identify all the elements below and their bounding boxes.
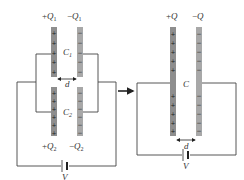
label-plus-q2: +Q2 [42, 141, 57, 152]
svg-text:−: − [196, 110, 201, 117]
c1-plus-signs: + + + + + [51, 29, 56, 75]
svg-text:+: + [170, 57, 175, 64]
svg-text:−: − [196, 119, 201, 126]
parallel-capacitor-diagram: +Q1 −Q1 + + + + + − − − − − C1 d + + + [0, 0, 244, 180]
svg-text:+: + [51, 129, 56, 136]
label-d-right: d [184, 141, 189, 151]
svg-text:−: − [77, 105, 82, 112]
right-circuit: +Q −Q + + + + + + + + + + − − − − − − − … [137, 11, 236, 171]
svg-text:−: − [196, 92, 201, 99]
label-c: C [183, 79, 190, 89]
left-circuit: +Q1 −Q1 + + + + + − − − − − C1 d + + + [17, 11, 116, 180]
wire-inner-left [36, 54, 51, 112]
c1-minus-signs: − − − − − [77, 29, 82, 75]
svg-text:+: + [51, 29, 56, 36]
label-v-left: V [62, 172, 69, 180]
svg-text:+: + [170, 39, 175, 46]
c2-plus-signs: + + + + + + [51, 89, 56, 136]
svg-text:−: − [77, 129, 82, 136]
svg-text:−: − [77, 113, 82, 120]
svg-text:−: − [77, 29, 82, 36]
label-d-left: d [65, 79, 70, 89]
svg-text:+: + [51, 68, 56, 75]
svg-text:−: − [196, 101, 201, 108]
svg-text:+: + [51, 39, 56, 46]
svg-text:−: − [77, 97, 82, 104]
svg-text:+: + [170, 110, 175, 117]
label-minus-q: −Q [192, 11, 204, 21]
svg-text:−: − [77, 58, 82, 65]
svg-text:−: − [77, 68, 82, 75]
svg-text:+: + [170, 119, 175, 126]
svg-text:−: − [196, 39, 201, 46]
svg-text:−: − [196, 57, 201, 64]
label-v-right: V [183, 161, 190, 171]
svg-text:+: + [51, 89, 56, 96]
svg-text:+: + [51, 58, 56, 65]
svg-text:+: + [51, 97, 56, 104]
wire-outer-right [69, 82, 116, 166]
svg-text:−: − [77, 39, 82, 46]
label-c2: C2 [63, 107, 72, 118]
svg-text:−: − [196, 127, 201, 134]
svg-text:+: + [170, 30, 175, 37]
svg-text:−: − [196, 66, 201, 73]
svg-text:+: + [51, 121, 56, 128]
svg-text:−: − [77, 49, 82, 56]
label-plus-q1: +Q1 [42, 11, 57, 22]
wire-inner-right [83, 54, 98, 112]
c2-minus-signs: − − − − − − [77, 89, 82, 136]
label-c1: C1 [63, 47, 72, 58]
svg-text:−: − [77, 89, 82, 96]
svg-text:+: + [170, 92, 175, 99]
svg-text:+: + [51, 113, 56, 120]
label-plus-q: +Q [166, 11, 178, 21]
svg-text:+: + [170, 48, 175, 55]
svg-text:+: + [51, 49, 56, 56]
svg-text:+: + [170, 66, 175, 73]
svg-text:+: + [170, 127, 175, 134]
svg-text:−: − [196, 30, 201, 37]
svg-text:+: + [170, 101, 175, 108]
svg-text:+: + [51, 105, 56, 112]
label-minus-q1: −Q1 [67, 11, 82, 22]
svg-text:−: − [77, 121, 82, 128]
label-minus-q2: −Q2 [69, 141, 84, 152]
svg-text:−: − [196, 48, 201, 55]
